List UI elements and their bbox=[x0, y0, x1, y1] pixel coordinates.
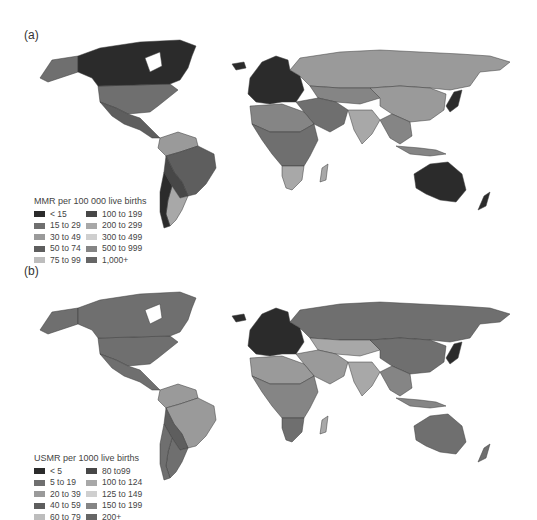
legend-label: 30 to 49 bbox=[50, 232, 81, 244]
legend-item: 125 to 149 bbox=[86, 489, 166, 501]
region-indonesia bbox=[396, 146, 446, 156]
region-southern-africa bbox=[282, 166, 304, 190]
legend-item: 200 to 299 bbox=[86, 220, 166, 232]
legend-label: 200+ bbox=[102, 512, 121, 520]
legend-swatch bbox=[86, 246, 97, 252]
legend-swatch bbox=[34, 468, 45, 474]
legend-label: 100 to 124 bbox=[102, 477, 142, 489]
legend-label: 20 to 39 bbox=[50, 489, 81, 501]
legend-label: 100 to 199 bbox=[102, 209, 142, 221]
region-southern-africa bbox=[282, 418, 304, 442]
region-madagascar bbox=[320, 416, 328, 434]
legend-item: 50 to 74 bbox=[34, 243, 86, 255]
map-legend: MMR per 100 000 live births < 15100 to 1… bbox=[34, 196, 166, 266]
region-new-zealand bbox=[478, 192, 490, 210]
legend-label: 5 to 19 bbox=[50, 477, 76, 489]
legend-title: USMR per 1000 live births bbox=[34, 453, 166, 465]
region-indonesia bbox=[396, 398, 446, 408]
legend-swatch bbox=[34, 246, 45, 252]
legend-swatch bbox=[86, 468, 97, 474]
region-russia bbox=[290, 50, 510, 90]
legend-swatch bbox=[34, 491, 45, 497]
legend-swatch bbox=[34, 234, 45, 240]
legend-swatch bbox=[34, 503, 45, 509]
region-australia bbox=[414, 162, 466, 202]
legend-swatch bbox=[34, 211, 45, 217]
legend-item: < 5 bbox=[34, 466, 86, 478]
legend-label: 300 to 499 bbox=[102, 232, 142, 244]
region-china bbox=[370, 86, 446, 122]
legend-item: 150 to 199 bbox=[86, 500, 166, 512]
region-iceland bbox=[232, 314, 246, 322]
legend-label: 200 to 299 bbox=[102, 220, 142, 232]
legend-label: 60 to 79 bbox=[50, 512, 81, 520]
region-india bbox=[348, 362, 380, 396]
legend-label: 15 to 29 bbox=[50, 220, 81, 232]
legend-item: 80 to99 bbox=[86, 466, 166, 478]
legend-label: 150 to 199 bbox=[102, 500, 142, 512]
region-new-zealand bbox=[478, 444, 490, 462]
legend-label: < 15 bbox=[50, 209, 67, 221]
legend-swatch bbox=[86, 234, 97, 240]
legend-label: 80 to99 bbox=[102, 466, 130, 478]
legend-item: 30 to 49 bbox=[34, 232, 86, 244]
mmr-map-panel: (a) MMR per 100 000 live births < 15100 … bbox=[0, 0, 537, 262]
legend-swatch bbox=[86, 491, 97, 497]
region-canada bbox=[78, 40, 196, 86]
legend-swatch bbox=[34, 223, 45, 229]
legend-swatch bbox=[86, 211, 97, 217]
region-china bbox=[370, 338, 446, 374]
legend-item: 300 to 499 bbox=[86, 232, 166, 244]
legend-item: 15 to 29 bbox=[34, 220, 86, 232]
legend-label: < 5 bbox=[50, 466, 62, 478]
legend-item: < 15 bbox=[34, 209, 86, 221]
region-madagascar bbox=[320, 164, 328, 182]
legend-swatch bbox=[86, 503, 97, 509]
legend-label: 500 to 999 bbox=[102, 243, 142, 255]
region-india bbox=[348, 110, 380, 144]
legend-item: 40 to 59 bbox=[34, 500, 86, 512]
usmr-map-panel: (b) USMR per 1000 live births < 580 to99… bbox=[0, 262, 537, 520]
legend-swatch bbox=[34, 480, 45, 486]
legend-item: 20 to 39 bbox=[34, 489, 86, 501]
legend-swatch bbox=[86, 480, 97, 486]
region-australia bbox=[414, 414, 466, 454]
legend-label: 50 to 74 bbox=[50, 243, 81, 255]
region-japan bbox=[446, 342, 462, 364]
legend-label: 40 to 59 bbox=[50, 500, 81, 512]
legend-item: 100 to 124 bbox=[86, 477, 166, 489]
region-russia bbox=[290, 302, 510, 342]
legend-swatch bbox=[86, 223, 97, 229]
region-iceland bbox=[232, 62, 246, 70]
legend-label: 125 to 149 bbox=[102, 489, 142, 501]
region-canada bbox=[78, 292, 196, 338]
legend-item: 5 to 19 bbox=[34, 477, 86, 489]
region-japan bbox=[446, 90, 462, 112]
legend-swatch bbox=[34, 514, 45, 520]
legend-item: 100 to 199 bbox=[86, 209, 166, 221]
legend-item: 500 to 999 bbox=[86, 243, 166, 255]
legend-swatch bbox=[86, 514, 97, 520]
legend-item: 60 to 79 bbox=[34, 512, 86, 520]
map-legend: USMR per 1000 live births < 580 to995 to… bbox=[34, 453, 166, 520]
legend-title: MMR per 100 000 live births bbox=[34, 196, 166, 208]
legend-item: 200+ bbox=[86, 512, 166, 520]
